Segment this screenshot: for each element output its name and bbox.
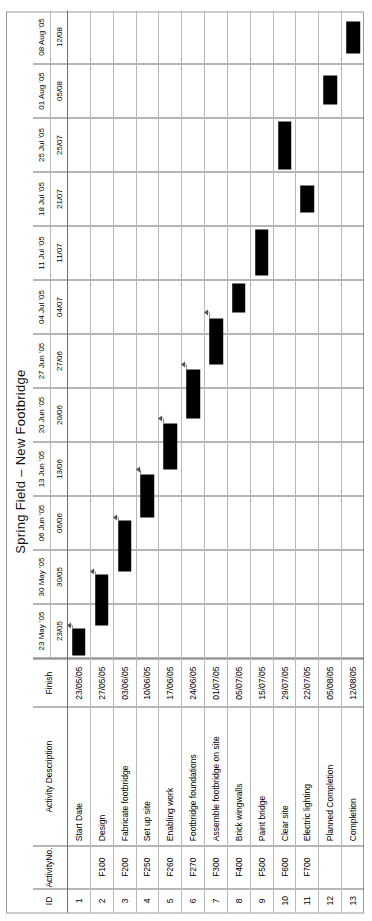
week-header-short: 23/05	[51, 604, 67, 657]
week-cell-8	[114, 172, 136, 226]
gantt-chart-page: Spring Field – New Footbridge ID Activit…	[0, 0, 372, 921]
week-cell-8	[319, 172, 341, 226]
week-header-short: 25/07	[51, 118, 67, 171]
dependency-link	[209, 312, 210, 317]
week-cell-3	[182, 442, 204, 496]
gantt-bar[interactable]	[186, 369, 200, 418]
week-cell-9	[296, 118, 318, 172]
row-activity-no: F700	[296, 845, 318, 888]
week-cell-3	[228, 442, 250, 496]
week-cell-0	[342, 604, 364, 658]
gantt-bar[interactable]	[164, 423, 178, 469]
week-cell-11	[68, 10, 90, 64]
week-cell-3	[68, 442, 90, 496]
week-header-0: 23 May '0523/05	[33, 604, 67, 658]
gantt-bar[interactable]	[141, 474, 155, 516]
gantt-bar[interactable]	[301, 186, 315, 213]
week-cell-9	[114, 118, 136, 172]
week-header-11: 08 Aug '0512/08	[33, 10, 67, 64]
gantt-bar[interactable]	[95, 574, 109, 624]
table-row[interactable]: 1Start Date23/05/05	[68, 10, 91, 912]
week-cell-4	[91, 388, 113, 442]
week-cell-9	[137, 118, 159, 172]
week-cell-5	[114, 334, 136, 388]
week-header-label: 04 Jul '05	[33, 280, 51, 333]
gantt-bar[interactable]	[323, 75, 337, 105]
week-cell-5	[319, 334, 341, 388]
week-cell-7	[205, 226, 227, 280]
week-cell-8	[91, 172, 113, 226]
week-cell-4	[319, 388, 341, 442]
gantt-bar[interactable]	[346, 21, 360, 53]
table-row[interactable]: 8F400Brick wingwalls05/07/05	[228, 10, 251, 912]
week-cell-6	[182, 280, 204, 334]
gantt-bar[interactable]	[72, 628, 86, 655]
dependency-link	[72, 625, 73, 629]
week-cell-6	[319, 280, 341, 334]
week-cell-3	[342, 442, 364, 496]
week-cell-11	[91, 10, 113, 64]
row-id: 5	[159, 888, 181, 912]
week-cell-3	[205, 442, 227, 496]
row-activity-no: F100	[91, 845, 113, 888]
week-cell-10	[205, 64, 227, 118]
week-cell-0	[296, 604, 318, 658]
gantt-track-row	[251, 10, 273, 658]
table-row[interactable]: 9F500Paint bridge15/07/05	[251, 10, 274, 912]
week-header-short: 27/06	[51, 334, 67, 387]
week-cell-10	[137, 64, 159, 118]
week-header-9: 25 Jul '0525/07	[33, 118, 67, 172]
gantt-bar[interactable]	[255, 229, 269, 275]
week-cell-3	[114, 442, 136, 496]
week-cell-5	[137, 334, 159, 388]
header-finish: Finish	[33, 658, 67, 706]
week-cell-1	[251, 550, 273, 604]
row-id: 4	[137, 888, 159, 912]
gantt-bar[interactable]	[118, 520, 132, 570]
dependency-arrow-icon	[204, 309, 208, 315]
table-row[interactable]: 2F100Design27/05/05	[91, 10, 114, 912]
table-row[interactable]: 6F270Footbridge foundations24/06/05	[182, 10, 205, 912]
week-cell-8	[228, 172, 250, 226]
week-cell-0	[228, 604, 250, 658]
gantt-track-row	[91, 10, 113, 658]
week-cell-0	[114, 604, 136, 658]
week-cell-7	[296, 226, 318, 280]
table-row[interactable]: 4F250Set up site10/06/05	[137, 10, 160, 912]
table-row[interactable]: 3F200Fabricate footbridge03/06/05	[114, 10, 137, 912]
table-row[interactable]: 7F300Assemble footbridge on site01/07/05	[205, 10, 228, 912]
gantt-bar[interactable]	[278, 121, 292, 170]
header-description: Activity Description	[33, 706, 67, 845]
week-cell-8	[159, 172, 181, 226]
week-cell-7	[159, 226, 181, 280]
week-cell-5	[68, 334, 90, 388]
table-row[interactable]: 5F260Enabling work17/06/05	[159, 10, 182, 912]
page-title: Spring Field – New Footbridge	[13, 369, 28, 553]
week-header-3: 13 Jun '0513/06	[33, 442, 67, 496]
week-header-2: 06 Jun '0506/06	[33, 496, 67, 550]
week-cell-2	[68, 496, 90, 550]
gantt-rows-container: 1Start Date23/05/052F100Design27/05/053F…	[68, 10, 364, 912]
week-cell-10	[342, 64, 364, 118]
week-cell-11	[319, 10, 341, 64]
row-activity-no	[342, 845, 364, 888]
table-row[interactable]: 13Completion12/08/05	[342, 10, 364, 912]
week-cell-5	[342, 334, 364, 388]
week-cell-0	[274, 604, 296, 658]
gantt-grid: ID Activity No. Activity Description Fin…	[33, 10, 364, 912]
week-cell-6	[296, 280, 318, 334]
table-row[interactable]: 11F700Electric lighting22/07/05	[296, 10, 319, 912]
week-header-short: 04/07	[51, 280, 67, 333]
week-cell-1	[182, 550, 204, 604]
week-header-short: 21/07	[51, 172, 67, 225]
week-cell-9	[68, 118, 90, 172]
week-cell-10	[228, 64, 250, 118]
chart-sheet: Spring Field – New Footbridge ID Activit…	[6, 11, 364, 913]
week-cell-7	[182, 226, 204, 280]
row-id: 9	[251, 888, 273, 912]
gantt-bar[interactable]	[209, 318, 223, 364]
table-row[interactable]: 12Planned Completion05/08/05	[319, 10, 342, 912]
gantt-bar[interactable]	[232, 283, 246, 313]
table-row[interactable]: 10F600Clear site29/07/05	[274, 10, 297, 912]
week-header-7: 11 Jul '0511/07	[33, 226, 67, 280]
